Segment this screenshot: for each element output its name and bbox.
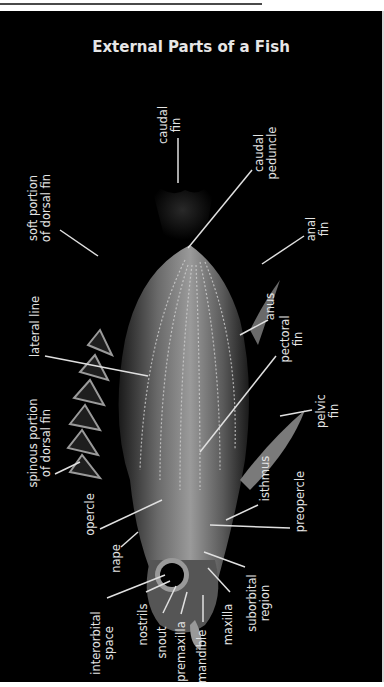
- label-line: snout: [156, 618, 169, 668]
- label-line: of dorsal fin: [40, 163, 53, 253]
- label-nape: nape: [110, 539, 123, 579]
- label-line: of dorsal fin: [40, 388, 53, 498]
- label-line: premaxilla: [175, 617, 188, 687]
- label-line: fin: [328, 386, 341, 436]
- label-line: fin: [292, 309, 305, 369]
- label-line: isthmus: [259, 449, 272, 509]
- label-line: mandible: [196, 622, 209, 687]
- label-preopercle: preopercle: [294, 462, 307, 542]
- label-soft-dorsal: soft portionof dorsal fin: [27, 163, 53, 253]
- label-opercle: opercle: [84, 485, 97, 545]
- label-isthmus: isthmus: [259, 449, 272, 509]
- label-premaxilla: premaxilla: [175, 617, 188, 687]
- label-spinous-dorsal: spinous portionof dorsal fin: [27, 388, 53, 498]
- label-nostrils: nostrils: [137, 595, 150, 655]
- label-snout: snout: [156, 618, 169, 668]
- label-line: fin: [318, 209, 331, 249]
- label-line: anus: [264, 287, 277, 327]
- label-line: preopercle: [294, 462, 307, 542]
- label-line: fin: [170, 95, 183, 155]
- label-line: opercle: [84, 485, 97, 545]
- label-caudal-fin: caudalfin: [157, 95, 183, 155]
- label-line: nape: [110, 539, 123, 579]
- label-maxilla: maxilla: [222, 595, 235, 655]
- label-line: peduncle: [266, 118, 279, 188]
- label-line: nostrils: [137, 595, 150, 655]
- label-anus: anus: [264, 287, 277, 327]
- label-suborbital: suborbitalregion: [246, 568, 272, 638]
- label-line: region: [259, 568, 272, 638]
- label-line: lateral line: [29, 287, 42, 367]
- label-pectoral-fin: pectoralfin: [279, 309, 305, 369]
- label-lateral-line: lateral line: [29, 287, 42, 367]
- label-mandible: mandible: [196, 622, 209, 687]
- label-anal-fin: analfin: [305, 209, 331, 249]
- label-line: maxilla: [222, 595, 235, 655]
- label-interorbital: interorbitalspace: [90, 603, 116, 683]
- label-pelvic-fin: pelvicfin: [315, 386, 341, 436]
- label-line: space: [103, 603, 116, 683]
- label-caudal-peduncle: caudalpeduncle: [253, 118, 279, 188]
